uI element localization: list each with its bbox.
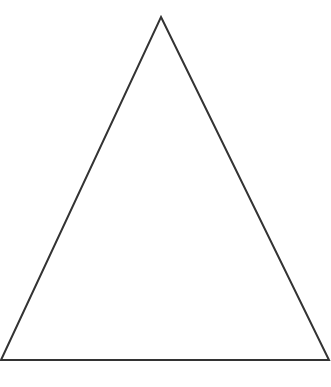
triangle-shape (1, 17, 329, 360)
diagram-canvas (0, 0, 331, 387)
triangle-diagram (0, 0, 331, 387)
